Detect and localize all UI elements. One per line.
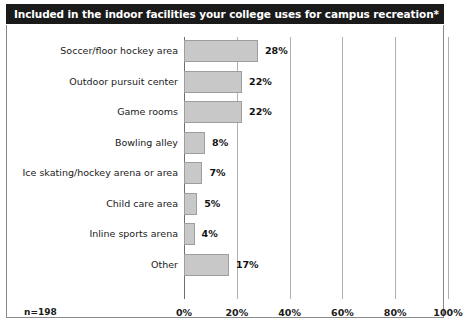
bar-row: Bowling alley8% — [6, 129, 444, 159]
bar-value-label: 22% — [249, 105, 272, 119]
sample-size-note: n=198 — [24, 306, 57, 319]
bar-value-label: 28% — [265, 44, 288, 58]
bar — [184, 254, 229, 276]
chart-figure: Included in the indoor facilities your c… — [6, 4, 444, 318]
bar-row: Inline sports arena4% — [6, 220, 444, 250]
category-label: Soccer/floor hockey area — [6, 44, 178, 58]
x-tick-label-20: 20% — [215, 306, 259, 319]
chart-title-bar: Included in the indoor facilities your c… — [6, 4, 444, 24]
bar — [184, 223, 195, 245]
bar-row: Game rooms22% — [6, 98, 444, 128]
bar — [184, 132, 205, 154]
bar-value-label: 22% — [249, 75, 272, 89]
bar — [184, 101, 242, 123]
x-tick-label-60: 60% — [320, 306, 364, 319]
bar-value-label: 5% — [204, 197, 220, 211]
bar — [184, 40, 258, 62]
bar — [184, 193, 197, 215]
category-label: Child care area — [6, 197, 178, 211]
x-tick-label-100: 100% — [426, 306, 468, 319]
bar-value-label: 7% — [209, 166, 225, 180]
bar-value-label: 17% — [236, 258, 259, 272]
category-label: Inline sports arena — [6, 227, 178, 241]
category-label: Ice skating/hockey arena or area — [6, 166, 178, 180]
bar-value-label: 8% — [212, 136, 228, 150]
x-tick-label-0: 0% — [162, 306, 206, 319]
bar-row: Soccer/floor hockey area28% — [6, 37, 444, 67]
bar-row: Child care area5% — [6, 190, 444, 220]
bar-row: Outdoor pursuit center22% — [6, 68, 444, 98]
bar-row: Other17% — [6, 251, 444, 281]
category-label: Other — [6, 258, 178, 272]
plot-area: Soccer/floor hockey area28%Outdoor pursu… — [6, 25, 444, 318]
category-label: Outdoor pursuit center — [6, 75, 178, 89]
x-tick-label-80: 80% — [373, 306, 417, 319]
bar-value-label: 4% — [202, 227, 218, 241]
bar — [184, 71, 242, 93]
x-tick-label-40: 40% — [268, 306, 312, 319]
category-label: Bowling alley — [6, 136, 178, 150]
page-title: Included in the indoor facilities your c… — [14, 7, 439, 21]
bar — [184, 162, 202, 184]
gridline-100 — [448, 37, 449, 299]
category-label: Game rooms — [6, 105, 178, 119]
bar-row: Ice skating/hockey arena or area7% — [6, 159, 444, 189]
